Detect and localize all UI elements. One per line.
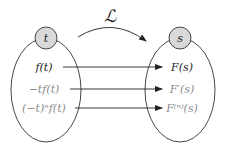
laplace-diagram: t s ℒ f(t) F(s) −tf(t) F′(s) (−t)ⁿf(t) F… <box>0 0 229 152</box>
mapping-target-1: F′(s) <box>169 83 194 96</box>
mapping-target-0: F(s) <box>170 61 193 74</box>
mapping-target-2: F⁽ⁿ⁾(s) <box>165 102 198 115</box>
mapping-source-1: −tf(t) <box>29 83 60 96</box>
mapping-source-0: f(t) <box>34 61 52 74</box>
domain-node-label: t <box>44 32 49 45</box>
laplace-symbol: ℒ <box>104 6 117 26</box>
mapping-source-2: (−t)ⁿf(t) <box>22 102 66 115</box>
laplace-arc-arrow <box>78 27 146 41</box>
codomain-node-label: s <box>177 32 183 45</box>
